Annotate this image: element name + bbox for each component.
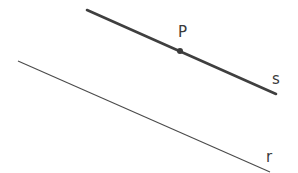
label-r: r (266, 148, 273, 166)
label-p: P (178, 23, 187, 41)
parallel-lines-diagram: P s r (0, 0, 298, 173)
line-r (18, 61, 270, 172)
label-s: s (272, 70, 280, 88)
point-p (177, 48, 183, 54)
